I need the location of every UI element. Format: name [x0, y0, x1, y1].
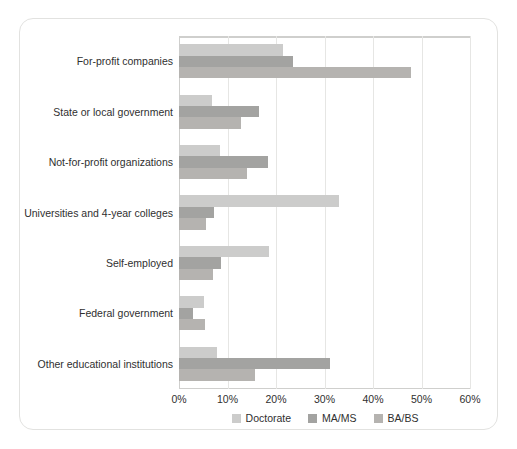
bar-track [179, 296, 470, 307]
bar-group-inner [179, 195, 470, 229]
y-axis-category-label: Other educational institutions [23, 358, 173, 370]
y-axis-category-label: For-profit companies [23, 55, 173, 67]
bar [179, 207, 214, 218]
bar [179, 347, 217, 358]
bar-track [179, 269, 470, 280]
bar-group [179, 288, 470, 338]
bar [179, 218, 206, 229]
bar-track [179, 308, 470, 319]
gridline-60pct [470, 36, 471, 389]
bar [179, 257, 221, 268]
legend-swatch-icon [308, 414, 317, 423]
bar [179, 308, 193, 319]
legend-label: MA/MS [322, 412, 356, 424]
bar-group [179, 137, 470, 187]
x-axis-tick-label: 20% [265, 393, 286, 405]
bar-group-inner [179, 44, 470, 78]
bar-group-inner [179, 145, 470, 179]
bar [179, 117, 241, 128]
bar-track [179, 246, 470, 257]
bar-track [179, 168, 470, 179]
x-axis-tick-label: 40% [362, 393, 383, 405]
bar-group-inner [179, 246, 470, 280]
bar [179, 44, 283, 55]
legend-swatch-icon [232, 414, 241, 423]
bar-track [179, 195, 470, 206]
y-axis-labels: For-profit companiesState or local gover… [20, 36, 173, 389]
y-axis-category-label: Not-for-profit organizations [23, 156, 173, 168]
x-axis-tick-label: 60% [459, 393, 480, 405]
bar-group [179, 238, 470, 288]
bar [179, 56, 293, 67]
bar-track [179, 347, 470, 358]
bar [179, 296, 204, 307]
x-axis-tick-labels: 0%10%20%30%40%50%60% [179, 393, 471, 407]
bar-group [179, 187, 470, 237]
horizontal-bar-chart: For-profit companiesState or local gover… [20, 19, 499, 431]
bar [179, 95, 212, 106]
bar-track [179, 56, 470, 67]
bar [179, 145, 220, 156]
y-axis-category-label: Federal government [23, 307, 173, 319]
bar [179, 246, 269, 257]
x-axis-tick-label: 10% [217, 393, 238, 405]
y-axis-category-label: State or local government [23, 106, 173, 118]
bar-track [179, 369, 470, 380]
bar [179, 358, 330, 369]
bar [179, 319, 205, 330]
legend-label: BA/BS [388, 412, 419, 424]
plot-area [179, 36, 470, 389]
bar [179, 195, 339, 206]
y-axis-category-label: Universities and 4-year colleges [23, 207, 173, 219]
bar-track [179, 218, 470, 229]
legend-label: Doctorate [246, 412, 292, 424]
legend-item-doctorate[interactable]: Doctorate [232, 412, 292, 424]
bar-track [179, 95, 470, 106]
bar-track [179, 257, 470, 268]
bar [179, 106, 259, 117]
bar-track [179, 67, 470, 78]
bar-track [179, 358, 470, 369]
bar-track [179, 145, 470, 156]
x-axis-tick-label: 50% [411, 393, 432, 405]
bar-group [179, 86, 470, 136]
bar-group [179, 36, 470, 86]
bar-group-inner [179, 296, 470, 330]
chart-card: For-profit companiesState or local gover… [19, 18, 498, 430]
bar-track [179, 207, 470, 218]
bar [179, 156, 268, 167]
bar-track [179, 117, 470, 128]
x-axis-tick-label: 30% [314, 393, 335, 405]
bar-group [179, 339, 470, 389]
chart-legend: DoctorateMA/MSBA/BS [179, 410, 471, 426]
legend-item-ma-ms[interactable]: MA/MS [308, 412, 356, 424]
bar-group-inner [179, 347, 470, 381]
y-axis-category-label: Self-employed [23, 257, 173, 269]
bar-group-inner [179, 95, 470, 129]
bar [179, 269, 213, 280]
legend-swatch-icon [374, 414, 383, 423]
bar [179, 168, 247, 179]
bar [179, 369, 255, 380]
bar-track [179, 319, 470, 330]
bar-track [179, 106, 470, 117]
x-axis-tick-label: 0% [171, 393, 186, 405]
bar-track [179, 44, 470, 55]
legend-item-ba-bs[interactable]: BA/BS [374, 412, 419, 424]
bar [179, 67, 411, 78]
bar-track [179, 156, 470, 167]
